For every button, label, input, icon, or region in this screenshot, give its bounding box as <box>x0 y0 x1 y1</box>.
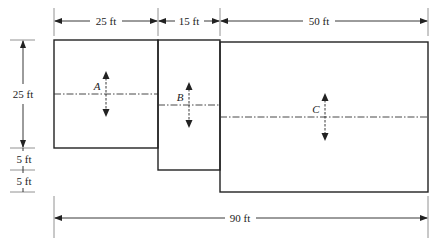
dimension-top-50ft: 50 ft <box>221 15 427 27</box>
dimension-label: 5 ft <box>17 153 32 165</box>
dimension-label: 90 ft <box>230 212 250 224</box>
dimension-label: 5 ft <box>17 175 32 187</box>
area-label: B <box>177 91 184 103</box>
area-c: C <box>220 42 428 192</box>
dimension-left-25ft: 25 ft <box>13 41 33 147</box>
dimension-label: 50 ft <box>309 15 329 27</box>
dimension-label: 25 ft <box>96 15 116 27</box>
dimension-label: 25 ft <box>13 88 33 100</box>
dimension-bottom-90ft: 90 ft <box>55 212 427 224</box>
left-extension-lines <box>10 40 35 192</box>
area-b: B <box>158 40 220 170</box>
dimension-left-5ft-upper: 5 ft <box>17 148 32 170</box>
footing-plan-diagram: 25 ft 15 ft 50 ft 25 ft 5 ft 5 ft <box>0 0 436 244</box>
area-a: A <box>54 40 158 148</box>
area-label: A <box>93 80 101 92</box>
dimension-top-25ft: 25 ft <box>55 15 157 27</box>
dimension-left-5ft-lower: 5 ft <box>17 170 32 192</box>
area-label: C <box>312 103 320 115</box>
dimension-top-15ft: 15 ft <box>159 15 219 27</box>
dimension-label: 15 ft <box>179 15 199 27</box>
